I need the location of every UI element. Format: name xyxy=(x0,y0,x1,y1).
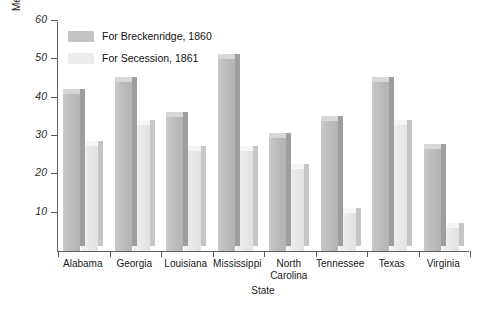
bar-georgia-series1 xyxy=(115,82,132,251)
bar-side-face xyxy=(132,77,137,246)
x-axis-tick xyxy=(316,251,317,257)
legend-item-breckenridge: For Breckenridge, 1860 xyxy=(68,27,212,45)
bar-virginia-series1 xyxy=(424,149,441,251)
bar-side-face xyxy=(407,120,412,247)
bar-front-face xyxy=(269,138,286,251)
x-axis-category-label: Louisiana xyxy=(160,258,212,270)
y-axis-title: Median Percentage of Eligible Voters xyxy=(10,0,24,44)
y-axis-tick: 30 xyxy=(51,135,58,136)
bar-front-face xyxy=(63,94,80,251)
bar-side-face xyxy=(304,164,309,246)
x-axis-category-label: Tennessee xyxy=(315,258,367,270)
bar-alabama-series1 xyxy=(63,94,80,251)
x-axis-category-label: Mississippi xyxy=(212,258,264,270)
bar-front-face xyxy=(218,59,235,251)
y-axis-tick-label: 60 xyxy=(35,13,47,25)
x-axis-category-label: Texas xyxy=(366,258,418,270)
x-axis-tick xyxy=(161,251,162,257)
x-axis-tick xyxy=(58,251,59,257)
y-axis-tick-label: 40 xyxy=(35,90,47,102)
bar-side-face xyxy=(80,89,85,246)
chart-legend: For Breckenridge, 1860 For Secession, 18… xyxy=(68,27,212,71)
bar-chart: Median Percentage of Eligible Voters 102… xyxy=(0,0,498,309)
y-axis-tick: 60 xyxy=(51,20,58,21)
x-axis-category-label: Georgia xyxy=(109,258,161,270)
y-axis-tick-label: 20 xyxy=(35,166,47,178)
y-axis-tick: 40 xyxy=(51,97,58,98)
x-axis-tick xyxy=(470,251,471,257)
x-axis-category-label: North Carolina xyxy=(263,258,315,282)
y-axis-tick-label: 30 xyxy=(35,128,47,140)
x-axis-title: State xyxy=(57,285,469,296)
bar-side-face xyxy=(150,120,155,247)
bar-tennessee-series1 xyxy=(321,121,338,251)
bar-front-face xyxy=(424,149,441,251)
bar-louisiana-series1 xyxy=(166,117,183,251)
bar-side-face xyxy=(441,144,446,246)
bar-side-face xyxy=(286,133,291,246)
y-axis-tick: 50 xyxy=(51,58,58,59)
x-axis-tick xyxy=(264,251,265,257)
bar-side-face xyxy=(98,141,103,246)
bar-north-carolina-series1 xyxy=(269,138,286,251)
bar-front-face xyxy=(321,121,338,251)
legend-item-secession: For Secession, 1861 xyxy=(68,49,212,67)
bar-side-face xyxy=(235,54,240,246)
x-axis-category-label: Alabama xyxy=(57,258,109,270)
legend-label-secession: For Secession, 1861 xyxy=(102,52,198,64)
bar-front-face xyxy=(166,117,183,251)
bar-side-face xyxy=(459,223,464,246)
legend-swatch-icon-breckenridge xyxy=(68,31,94,42)
legend-swatch-icon-secession xyxy=(68,53,94,64)
x-axis-tick xyxy=(367,251,368,257)
y-axis-tick-label: 50 xyxy=(35,51,47,63)
y-axis-tick: 20 xyxy=(51,173,58,174)
bar-texas-series1 xyxy=(372,82,389,251)
x-axis-tick xyxy=(110,251,111,257)
y-axis-tick-label: 10 xyxy=(35,205,47,217)
bar-mississippi-series1 xyxy=(218,59,235,251)
bar-front-face xyxy=(372,82,389,251)
bar-side-face xyxy=(183,112,188,246)
bar-side-face xyxy=(356,208,361,246)
y-axis-tick: 10 xyxy=(51,212,58,213)
bar-side-face xyxy=(389,77,394,246)
x-axis-tick xyxy=(419,251,420,257)
x-axis-category-label: Virginia xyxy=(418,258,470,270)
bar-front-face xyxy=(115,82,132,251)
x-axis-tick xyxy=(213,251,214,257)
legend-label-breckenridge: For Breckenridge, 1860 xyxy=(102,30,212,42)
bar-side-face xyxy=(338,116,343,246)
bar-side-face xyxy=(253,146,258,246)
bar-side-face xyxy=(201,146,206,246)
